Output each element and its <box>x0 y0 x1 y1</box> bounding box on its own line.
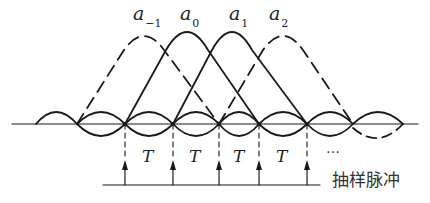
label-a1: a1 <box>229 2 248 28</box>
sinc-pulse-sampling-diagram: a−1 a0 a1 a2 T T T T … 抽样脉冲 <box>0 0 430 203</box>
continuation-ellipsis: … <box>326 140 341 156</box>
pulse-a0 <box>125 32 259 124</box>
label-a0: a0 <box>180 2 199 28</box>
pulse-a1 <box>173 32 307 124</box>
interval-label-1: T <box>142 146 153 166</box>
pulse-a2 <box>219 36 353 124</box>
label-a-minus-1: a−1 <box>133 2 162 28</box>
pulse-a-minus-1 <box>77 36 219 124</box>
sampling-pulse-caption: 抽样脉冲 <box>332 166 400 191</box>
interval-label-2: T <box>189 146 200 166</box>
label-a2: a2 <box>269 2 288 28</box>
interval-label-4: T <box>276 146 287 166</box>
interval-label-3: T <box>233 146 244 166</box>
side-lobe-dashed-right <box>353 124 403 138</box>
sampling-arrows <box>125 165 307 185</box>
side-lobes-lower <box>77 124 353 136</box>
